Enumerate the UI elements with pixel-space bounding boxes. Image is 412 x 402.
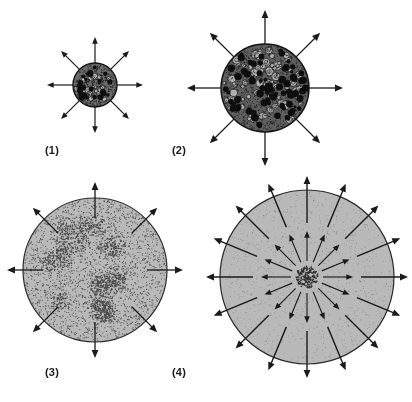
panel-label-1: (1) xyxy=(45,144,59,156)
panel-label-3: (3) xyxy=(45,366,59,378)
panel-label-4: (4) xyxy=(172,366,186,378)
panel-label-2: (2) xyxy=(172,144,186,156)
figure-container: (1) (2) (3) (4) xyxy=(0,0,412,402)
expansion-sequence-diagram xyxy=(0,0,412,402)
